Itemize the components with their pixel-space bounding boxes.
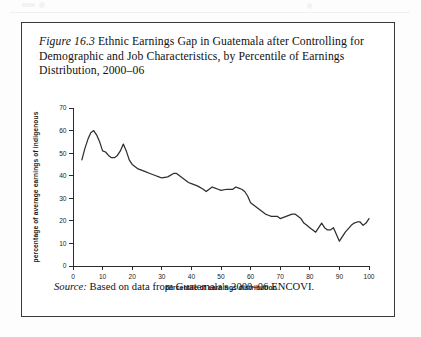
- page-canvas: Figure 16.3 Ethnic Earnings Gap in Guate…: [0, 0, 421, 337]
- x-tick-label: 10: [99, 273, 107, 280]
- y-tick-label: 60: [59, 127, 67, 134]
- source-text: Based on data from Guatemala's 2000–06 E…: [87, 281, 314, 292]
- page-rule: [10, 12, 410, 13]
- y-tick-label: 30: [59, 195, 67, 202]
- x-tick-label: 0: [71, 273, 75, 280]
- y-tick-label: 70: [59, 104, 67, 111]
- scan-artifact: [307, 3, 312, 9]
- scan-artifact: [39, 2, 45, 8]
- source-note: Source: Based on data from Guatemala's 2…: [54, 281, 314, 292]
- x-tick-label: 100: [363, 273, 374, 280]
- data-series-line: [82, 131, 369, 242]
- x-tick-label: 80: [306, 273, 314, 280]
- y-tick-label: 20: [59, 217, 67, 224]
- x-tick-label: 30: [158, 273, 166, 280]
- x-tick-label: 50: [217, 273, 225, 280]
- x-tick-label: 20: [129, 273, 137, 280]
- x-tick-label: 70: [277, 273, 285, 280]
- x-tick-label: 40: [188, 273, 196, 280]
- figure-container: Figure 16.3 Ethnic Earnings Gap in Guate…: [21, 22, 395, 317]
- y-tick-label: 10: [59, 240, 67, 247]
- y-axis-title: percentage of average earnings of indige…: [32, 111, 40, 262]
- y-tick-label: 0: [63, 262, 67, 269]
- scan-artifact: [22, 3, 35, 7]
- x-tick-label: 90: [336, 273, 344, 280]
- y-tick-label: 40: [59, 172, 67, 179]
- source-label: Source:: [54, 281, 87, 292]
- chart-plot-area: 0102030405060708090100010203040506070per…: [22, 23, 396, 318]
- line-chart: 0102030405060708090100010203040506070per…: [22, 23, 396, 318]
- x-tick-label: 60: [247, 273, 255, 280]
- y-tick-label: 50: [59, 150, 67, 157]
